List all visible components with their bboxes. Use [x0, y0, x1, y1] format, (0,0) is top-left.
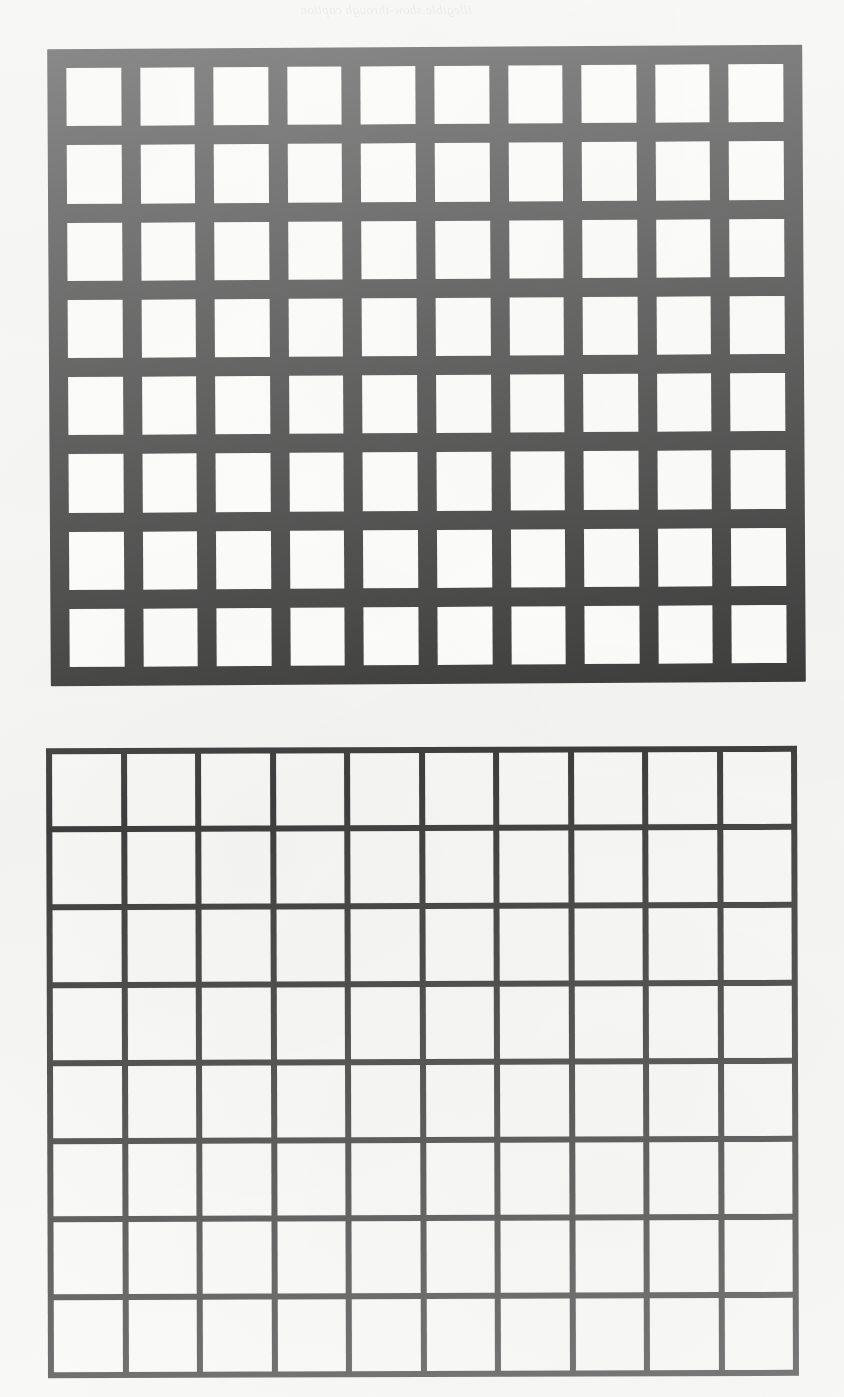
grid-cell	[574, 830, 643, 902]
grid-cell	[214, 144, 269, 203]
grid-cell	[511, 606, 566, 665]
grid-cell	[127, 832, 196, 904]
grid-cell	[509, 220, 564, 279]
grid-cell	[350, 831, 419, 903]
grid-cell	[288, 298, 343, 357]
grid-cell	[277, 1065, 346, 1137]
grid-cell	[723, 752, 792, 824]
grid-cell	[127, 910, 196, 982]
grid-cell	[658, 605, 713, 664]
grid-cell	[53, 1066, 122, 1138]
grid-cell	[287, 66, 342, 125]
grid-cell	[216, 530, 271, 589]
grid-cell	[425, 753, 494, 825]
grid-cell	[583, 297, 638, 356]
grid-cell	[436, 375, 491, 434]
grid-cell	[509, 297, 564, 356]
grid-cell	[127, 988, 196, 1060]
grid-cell	[290, 530, 345, 589]
grid-cell	[499, 753, 568, 825]
grid-cell	[127, 754, 196, 826]
grid-cell	[500, 909, 569, 981]
grid-cell	[140, 145, 195, 204]
grid-cell	[730, 373, 785, 432]
grid-cell	[351, 1143, 420, 1215]
grid-thick-rule	[47, 45, 806, 686]
grid-cell	[730, 218, 785, 277]
grid-cell	[201, 831, 270, 903]
grid-cell	[364, 607, 419, 666]
grid-cell	[68, 300, 123, 359]
grid-cell	[500, 1221, 569, 1293]
grid-cell	[501, 1299, 570, 1371]
grid-cell	[500, 987, 569, 1059]
grid-cell	[723, 830, 792, 902]
grid-cell	[141, 222, 196, 281]
grid-cell	[575, 1298, 644, 1370]
grid-cell	[723, 986, 792, 1058]
grid-cell	[575, 1220, 644, 1292]
grid-cell	[142, 376, 197, 435]
grid-cell	[436, 297, 491, 356]
grid-cell	[724, 1142, 793, 1214]
grid-cell	[574, 752, 643, 824]
grid-cell	[730, 296, 785, 355]
grid-cell	[508, 65, 563, 124]
grid-cell	[575, 1064, 644, 1136]
grid-cell	[217, 608, 272, 667]
grid-cell	[141, 299, 196, 358]
grid-cell	[575, 1142, 644, 1214]
grid-cell	[425, 909, 494, 981]
grid-cell	[351, 987, 420, 1059]
grid-cell	[202, 909, 271, 981]
grid-cell	[202, 1143, 271, 1215]
grid-cell	[437, 606, 492, 665]
grid-cell	[213, 67, 268, 126]
grid-cell	[582, 219, 637, 278]
grid-cell	[649, 986, 718, 1058]
grid-cell	[128, 1144, 197, 1216]
grid-cell	[434, 66, 489, 125]
grid-cell	[649, 908, 718, 980]
grid-cell	[143, 531, 198, 590]
grid-cell	[361, 143, 416, 202]
grid-cell	[52, 754, 121, 826]
grid-cell	[128, 1222, 197, 1294]
grid-cell	[582, 142, 637, 201]
grid-cell	[53, 910, 122, 982]
grid-cell	[215, 376, 270, 435]
grid-cell	[214, 221, 269, 280]
figure-bottom-thin-rule-grid	[46, 746, 799, 1378]
grid-cell	[511, 529, 566, 588]
grid-cell	[425, 987, 494, 1059]
grid-cell	[351, 1221, 420, 1293]
grid-cell	[426, 1221, 495, 1293]
grid-cell	[215, 299, 270, 358]
bleed-through-top-caption: illegible show-through caption	[300, 2, 472, 18]
grid-cell	[203, 1299, 272, 1371]
grid-cell	[729, 141, 784, 200]
grid-cell	[656, 296, 711, 355]
grid-cell	[277, 1143, 346, 1215]
grid-cell	[500, 1143, 569, 1215]
grid-cell	[435, 143, 490, 202]
grid-cell	[143, 608, 198, 667]
grid-cell	[510, 374, 565, 433]
grid-cell	[362, 221, 417, 280]
grid-cell	[583, 374, 638, 433]
grid-cell	[584, 528, 639, 587]
grid-cell	[362, 375, 417, 434]
grid-cell	[203, 1221, 272, 1293]
grid-cell	[426, 1299, 495, 1371]
grid-cell	[68, 377, 123, 436]
grid-cell	[657, 373, 712, 432]
grid-cell	[128, 1300, 197, 1372]
grid-cell	[649, 1064, 718, 1136]
grid-cell	[585, 606, 640, 665]
grid-thin-rule	[46, 746, 799, 1378]
grid-cell	[140, 67, 195, 126]
grid-cell	[53, 1144, 122, 1216]
grid-cell	[216, 453, 271, 512]
grid-cell	[289, 375, 344, 434]
grid-cell	[584, 451, 639, 510]
